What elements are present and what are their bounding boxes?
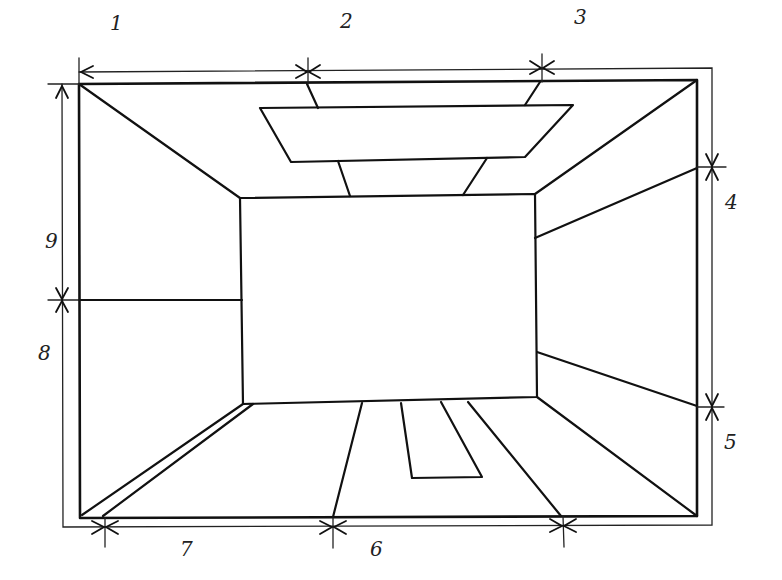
floor-line-middle — [333, 403, 362, 517]
back-wall — [240, 194, 537, 404]
floor-rug — [401, 402, 482, 478]
floor-line-right — [468, 402, 561, 516]
label-1: 1 — [110, 11, 123, 35]
ceiling-support-right-top — [525, 82, 540, 105]
label-3: 3 — [574, 5, 587, 29]
right-wall-lines — [535, 168, 697, 406]
corner-edges — [79, 80, 697, 516]
floor-strip — [82, 404, 253, 516]
label-9: 9 — [45, 229, 58, 253]
ceiling-support-right-bottom — [463, 158, 487, 195]
label-4: 4 — [724, 190, 738, 214]
ceiling-support-left-bottom — [338, 161, 350, 196]
dimension-arrows — [56, 61, 718, 534]
dimension-labels: 1 2 3 4 5 6 7 8 9 — [38, 5, 738, 561]
label-2: 2 — [339, 9, 353, 33]
label-8: 8 — [38, 341, 51, 365]
label-7: 7 — [180, 537, 193, 561]
ceiling-light — [260, 82, 573, 196]
ceiling-support-left-top — [307, 84, 318, 108]
label-5: 5 — [724, 430, 737, 454]
label-6: 6 — [370, 537, 383, 561]
room-perspective-diagram: 1 2 3 4 5 6 7 8 9 — [0, 0, 782, 580]
